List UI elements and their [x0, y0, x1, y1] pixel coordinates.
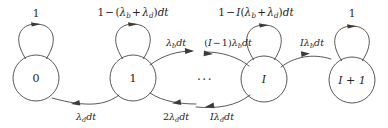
self-loop-state-0 — [19, 22, 54, 58]
edge-label-I-to-I-1: Iλbdt — [300, 38, 324, 49]
arrow-head — [347, 24, 357, 28]
node-label-state-0: 0 — [33, 73, 40, 84]
edge-label-1-to-next: λbdt — [166, 38, 186, 49]
edge-prev-to-I — [204, 50, 249, 66]
self-loop-label-state-I-1: 1 — [349, 8, 356, 19]
node-label-state-I: I — [262, 74, 266, 85]
arrow-head — [185, 48, 194, 54]
edge-next-to-1 — [150, 93, 196, 105]
node-label-state-1: 1 — [130, 73, 137, 84]
edge-label-1-to-0: λddt — [76, 112, 96, 123]
arrow-head — [204, 50, 213, 56]
ellipsis-icon: ··· — [197, 73, 213, 87]
edge-label-prev-to-I: (I−1)λbdt — [204, 38, 252, 49]
edge-I-to-I-1 — [281, 51, 331, 67]
edge-label-I-to-prev: Iλddt — [210, 112, 234, 123]
arrow-head — [259, 23, 269, 27]
edge-1-to-0 — [52, 95, 119, 106]
edge-I-to-prev — [196, 95, 250, 108]
node-label-state-I-1: I + 1 — [338, 75, 366, 86]
self-loop-label-state-I: 1−I(λb+λd)dt — [218, 7, 293, 19]
edge-1-to-next — [150, 48, 194, 65]
self-loop-label-state-1: 1−(λb+λd)dt — [97, 7, 168, 19]
self-loop-state-I-1 — [335, 24, 370, 60]
arrow-head — [31, 22, 41, 26]
edge-label-next-to-1: 2λddt — [163, 112, 189, 123]
arrow-head — [128, 22, 138, 26]
self-loop-label-state-0: 1 — [33, 8, 40, 19]
state-transition-diagram: 0 1 I I + 1 ··· 1 1−(λb+λd)dt 1−I(λb+λd)… — [0, 0, 388, 128]
self-loop-state-1 — [116, 22, 151, 58]
diagram-canvas — [0, 0, 388, 128]
